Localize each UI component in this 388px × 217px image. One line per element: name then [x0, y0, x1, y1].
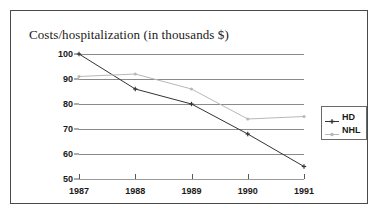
y-tick-label: 90	[63, 74, 73, 84]
gridline	[79, 179, 304, 180]
data-point-marker	[77, 75, 80, 78]
legend-swatch-icon	[325, 112, 339, 121]
y-tick-label: 80	[63, 99, 73, 109]
data-point-marker	[189, 102, 193, 106]
series-lines	[79, 54, 304, 179]
x-tick-label: 1988	[125, 186, 145, 196]
chart-legend[interactable]: HDNHL	[321, 106, 367, 140]
data-point-marker	[246, 132, 250, 136]
data-point-marker	[190, 87, 193, 90]
data-point-marker	[302, 115, 305, 118]
legend-item-hd[interactable]: HD	[325, 110, 361, 123]
x-tick-mark	[304, 174, 305, 179]
legend-swatch-icon	[325, 125, 339, 134]
y-tick-label: 70	[63, 124, 73, 134]
legend-item-nhl[interactable]: NHL	[325, 123, 361, 136]
data-point-marker	[134, 72, 137, 75]
legend-label: NHL	[342, 125, 361, 135]
series-line-hd	[79, 54, 304, 167]
x-tick-label: 1991	[294, 186, 314, 196]
data-point-marker	[246, 117, 249, 120]
legend-label: HD	[342, 112, 355, 122]
chart-title: Costs/hospitalization (in thousands $)	[29, 27, 229, 43]
x-tick-label: 1990	[238, 186, 258, 196]
plot-area: 5060708090100 19871988198919901991	[79, 54, 304, 179]
x-tick-label: 1989	[181, 186, 201, 196]
chart-frame: Costs/hospitalization (in thousands $) 5…	[10, 10, 368, 204]
data-point-marker	[302, 164, 306, 168]
y-tick-label: 60	[63, 149, 73, 159]
y-tick-label: 50	[63, 174, 73, 184]
series-line-nhl	[79, 74, 304, 119]
y-tick-label: 100	[58, 49, 73, 59]
x-tick-label: 1987	[69, 186, 89, 196]
